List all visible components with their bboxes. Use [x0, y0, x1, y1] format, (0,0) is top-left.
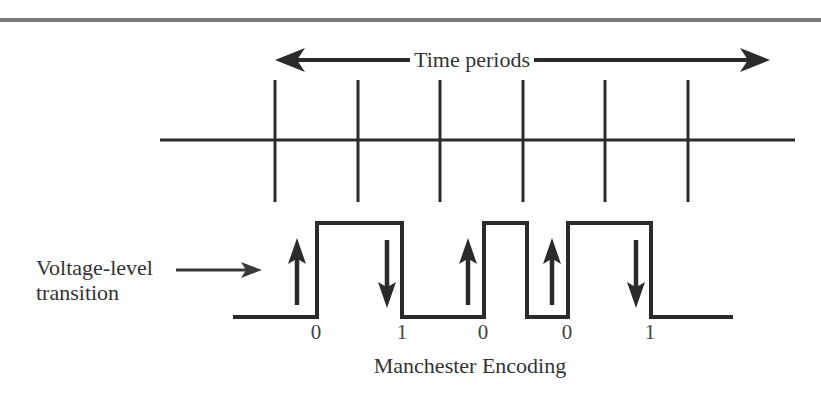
bit-label-0: 0 — [304, 320, 328, 344]
arrow-up-icon-3 — [543, 238, 561, 305]
voltage-level-transition-label: Voltage-leveltransition — [36, 255, 153, 306]
bit-label-2: 0 — [471, 320, 495, 344]
figure-canvas — [0, 0, 821, 405]
arrow-down-icon-4 — [627, 240, 645, 308]
manchester-encoding-figure: Time periods Voltage-leveltransition 010… — [0, 0, 821, 405]
time-axis-grid — [160, 80, 795, 202]
bit-label-3: 0 — [555, 320, 579, 344]
voltage-level-pointer-arrow — [176, 262, 262, 278]
bit-label-4: 1 — [638, 320, 662, 344]
voltage-level-line1: Voltage-level — [36, 255, 153, 280]
arrow-up-icon-0 — [288, 238, 306, 305]
time-periods-label: Time periods — [414, 47, 530, 72]
transition-arrow-group — [288, 238, 645, 308]
arrow-up-icon-2 — [459, 238, 477, 305]
bit-label-1: 1 — [390, 320, 414, 344]
arrow-down-icon-1 — [378, 240, 396, 308]
voltage-level-line2: transition — [36, 280, 119, 305]
manchester-encoding-caption: Manchester Encoding — [374, 353, 566, 378]
manchester-waveform — [233, 223, 733, 317]
